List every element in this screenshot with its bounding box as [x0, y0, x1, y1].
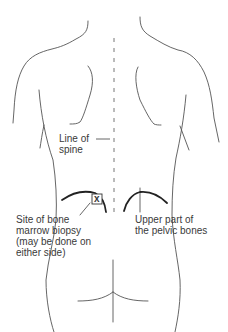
right-scapula	[136, 67, 161, 125]
left-shoulder-outline	[13, 21, 88, 123]
pelvic-label-line-2: the pelvic bones	[135, 225, 207, 236]
torso-back-diagram	[0, 0, 228, 332]
right-arm-inner	[180, 126, 189, 150]
biopsy-label-line-1: Site of bone	[16, 214, 91, 225]
biopsy-label-line-4: either side)	[16, 247, 91, 258]
biopsy-site-label: Site of bone marrow biopsy (may be done …	[16, 214, 91, 258]
buttocks-left	[78, 292, 113, 301]
left-flank	[39, 90, 56, 332]
biopsy-label-line-2: marrow biopsy	[16, 225, 91, 236]
biopsy-label-line-3: (may be done on	[16, 236, 91, 247]
spine-label-line-2: spine	[59, 144, 89, 155]
left-arm-inner	[40, 125, 44, 148]
pelvic-bones-label: Upper part of the pelvic bones	[135, 214, 207, 236]
spine-label-line-1: Line of	[59, 133, 89, 144]
biopsy-marker: x	[94, 193, 100, 204]
right-pelvic-crest	[124, 192, 167, 211]
spine-label: Line of spine	[59, 133, 89, 155]
buttocks-right	[113, 292, 148, 301]
left-scapula	[70, 66, 92, 124]
right-shoulder-outline	[140, 17, 219, 142]
pelvic-label-line-1: Upper part of	[135, 214, 207, 225]
